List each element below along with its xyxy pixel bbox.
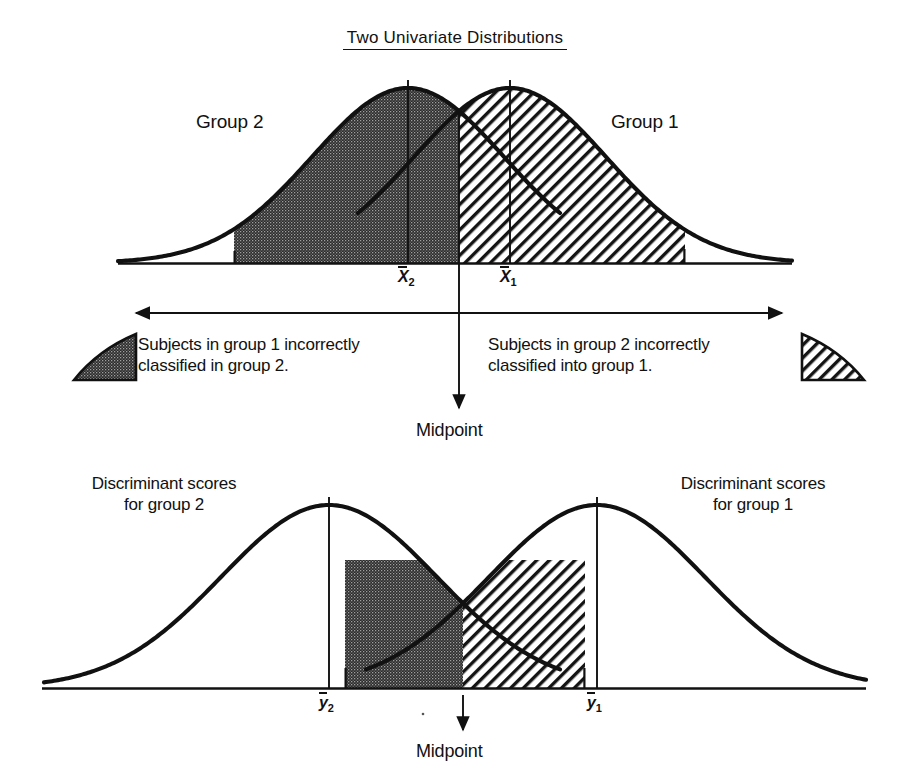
- mean-label-y2-sub: 2: [328, 702, 334, 714]
- mean-label-x2-text: X: [398, 268, 408, 286]
- discriminant-label-group-1: Discriminant scores for group 1: [655, 473, 851, 515]
- group-1-label: Group 1: [611, 111, 678, 133]
- midpoint-label-upper: Midpoint: [416, 420, 482, 441]
- mean-label-y1: y1: [587, 694, 602, 714]
- discriminant-label-group-2: Discriminant scores for group 2: [66, 473, 262, 515]
- page-title-text: Two Univariate Distributions: [343, 28, 567, 50]
- discriminant-analysis-figure: [0, 0, 910, 771]
- mean-label-x2: X2: [398, 268, 414, 288]
- group-2-label: Group 2: [196, 111, 263, 133]
- page-title: Two Univariate Distributions: [0, 28, 910, 48]
- mean-label-y2: y2: [319, 694, 334, 714]
- mean-label-x1: X1: [500, 268, 516, 288]
- hatched-tail-swatch: [800, 334, 864, 380]
- mean-label-y1-text: y: [587, 694, 596, 712]
- midpoint-label-lower: Midpoint: [416, 741, 482, 762]
- legend-caption-right: Subjects in group 2 incorrectly classifi…: [488, 334, 710, 376]
- mean-label-x1-sub: 1: [510, 276, 516, 288]
- lower-stipple-region: [345, 560, 463, 690]
- mean-label-x2-sub: 2: [408, 276, 414, 288]
- legend-caption-left: Subjects in group 1 incorrectly classifi…: [138, 334, 360, 376]
- mean-label-y2-text: y: [319, 694, 328, 712]
- mean-label-y1-sub: 1: [596, 702, 602, 714]
- stray-speck: [422, 713, 425, 716]
- mean-label-x1-text: X: [500, 268, 510, 286]
- lower-panel: [42, 497, 866, 730]
- lower-hatch-region: [463, 560, 585, 690]
